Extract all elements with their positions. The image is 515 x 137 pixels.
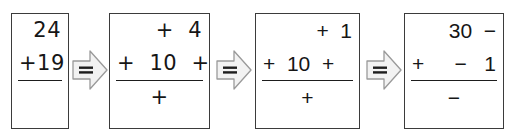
sum-rows-3: + 1 + 10 + + — [256, 14, 359, 113]
result-row-4[interactable]: − — [412, 81, 496, 113]
equals-arrow-icon-3 — [366, 48, 402, 92]
addend-row-1-value: 19 — [37, 53, 65, 74]
top-row-3: + 1 — [263, 14, 352, 47]
arrow-body-2 — [217, 51, 251, 89]
step-box-2[interactable]: + 4 + 10 + + — [109, 13, 210, 129]
top-row-4: 30 − — [412, 14, 496, 47]
equals-upper-bar-1 — [79, 67, 93, 69]
result-row-2-value: + — [150, 87, 168, 108]
arrow-body-3 — [367, 51, 401, 89]
addend-row-2-operator: + 10 + — [117, 53, 210, 74]
addend-row-3-operator: + 10 + — [263, 53, 334, 74]
step-box-1[interactable]: 24 + 19 — [11, 13, 69, 129]
addend-row-1: + 19 — [19, 47, 61, 80]
top-row-2-value: + 4 — [156, 20, 202, 41]
sum-rows-1: 24 + 19 — [12, 14, 68, 113]
top-row-1-value: 24 — [33, 20, 61, 41]
top-row-2: + 4 — [117, 14, 202, 47]
equals-upper-bar-2 — [223, 67, 237, 69]
worksheet-canvas: 24 + 19 + 4 + 10 + — [0, 0, 515, 137]
equals-arrow-icon-1 — [72, 48, 108, 92]
sum-rows-4: 30 − + − 1 − — [405, 14, 503, 113]
sum-rows-2: + 4 + 10 + + — [110, 14, 209, 113]
step-box-4[interactable]: 30 − + − 1 − — [404, 13, 504, 129]
result-row-3-value: + — [301, 87, 313, 108]
addend-row-3: + 10 + — [263, 47, 352, 80]
equals-arrow-icon-2 — [216, 48, 252, 92]
equals-lower-bar-2 — [223, 71, 237, 73]
equals-lower-bar-3 — [373, 71, 387, 73]
top-row-4-value: 30 − — [449, 20, 496, 41]
equals-upper-bar-3 — [373, 67, 387, 69]
step-box-3[interactable]: + 1 + 10 + + — [255, 13, 360, 129]
addend-row-2: + 10 + — [117, 47, 202, 80]
addend-row-4: + − 1 — [412, 47, 496, 80]
result-row-2[interactable]: + — [117, 81, 202, 113]
top-row-3-value: + 1 — [316, 20, 352, 41]
addend-row-4-value: − 1 — [455, 53, 496, 74]
result-row-3[interactable]: + — [263, 81, 352, 113]
equals-lower-bar-1 — [79, 71, 93, 73]
top-row-1: 24 — [19, 14, 61, 47]
addend-row-1-operator: + — [19, 53, 37, 74]
addend-row-4-operator: + — [412, 53, 424, 74]
result-row-1[interactable] — [19, 81, 61, 113]
result-row-4-value: − — [448, 87, 460, 108]
arrow-body-1 — [73, 51, 107, 89]
